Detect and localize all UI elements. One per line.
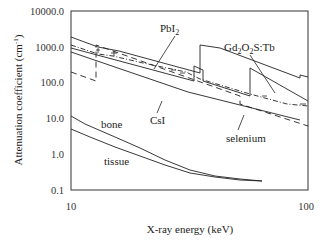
x-tick-100: 100 xyxy=(298,201,314,212)
series-bone-line xyxy=(71,116,262,181)
y-tick-1000: 1000.0 xyxy=(35,42,64,53)
x-tick-10: 10 xyxy=(66,201,77,212)
y-tick-1: 1.0 xyxy=(51,149,64,160)
series-csi-lower-line xyxy=(71,52,300,120)
y-axis-label: Attenuation coefficient (cm-1) xyxy=(12,34,25,165)
leader-csi xyxy=(157,101,162,113)
y-tick-10: 10.0 xyxy=(46,113,64,124)
series-csi-line xyxy=(71,48,308,101)
label-pbi2: PbI2 xyxy=(160,22,179,37)
y-tick-100: 100.0 xyxy=(40,77,64,88)
label-tissue: tissue xyxy=(104,155,129,167)
y-tick-labels: 10000.0 1000.0 100.0 10.0 1.0 0.1 xyxy=(30,6,64,196)
attenuation-chart: 10000.0 1000.0 100.0 10.0 1.0 0.1 10 100… xyxy=(0,0,322,242)
label-bone: bone xyxy=(101,118,123,130)
series-gdos-line xyxy=(71,45,308,106)
label-selenium: selenium xyxy=(226,132,266,144)
label-gdos: Gd2O2S:Tb xyxy=(224,41,275,56)
leader-gdos xyxy=(250,55,275,93)
y-tick-10000: 10000.0 xyxy=(30,6,64,17)
y-tick-0.1: 0.1 xyxy=(51,185,64,196)
label-csi: CsI xyxy=(150,114,166,126)
x-axis-label: X-ray energy (keV) xyxy=(147,223,234,236)
leader-pbi2 xyxy=(154,36,175,69)
leader-selenium xyxy=(238,115,244,130)
